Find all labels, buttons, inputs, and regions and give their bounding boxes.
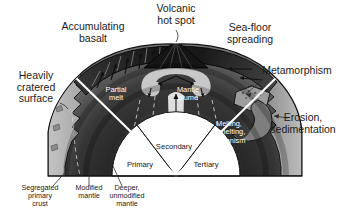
label-melting-remelting-volcanism: Melting,remelting,volcanism xyxy=(213,119,246,145)
label-secondary: Secondary xyxy=(156,142,193,151)
label-sea-floor-spreading: Sea-floorspreading xyxy=(227,21,273,45)
label-volcanic-hot-spot: Volcanichot spot xyxy=(156,2,195,26)
planet-body-group xyxy=(40,28,312,180)
label-line: cratered xyxy=(17,81,56,93)
label-line: Tertiary xyxy=(194,160,219,169)
label-line: Erosion, xyxy=(284,111,323,123)
label-line: surface xyxy=(19,92,54,104)
label-line: mantle xyxy=(78,191,100,200)
label-primary: Primary xyxy=(127,160,153,169)
label-tertiary: Tertiary xyxy=(194,160,219,169)
label-line: plume xyxy=(178,93,198,102)
label-modified-mantle: Modifiedmantle xyxy=(75,183,102,200)
label-deeper-unmodified-mantle: Deeper,unmodifiedmantle xyxy=(109,183,144,208)
label-line: basalt xyxy=(79,32,107,44)
label-line: Primary xyxy=(127,160,153,169)
label-line: Accumulating xyxy=(61,20,124,32)
label-line: Metamorphism xyxy=(262,64,332,76)
diagram-canvas: Volcanichot spotAccumulatingbasaltSea-fl… xyxy=(0,0,350,221)
label-line: Sea-floor xyxy=(229,21,272,33)
label-line: mantle xyxy=(116,199,138,208)
eruption-plume-wisp xyxy=(175,28,177,40)
label-line: hot spot xyxy=(157,14,194,26)
planetary-evolution-diagram: Volcanichot spotAccumulatingbasaltSea-fl… xyxy=(0,0,350,221)
label-line: Heavily xyxy=(19,69,54,81)
label-line: melt xyxy=(109,93,123,102)
label-line: volcanism xyxy=(213,136,246,145)
leader-volcanic-hot-spot xyxy=(176,30,178,42)
label-segregated-primary-crust: Segregatedprimarycrust xyxy=(21,183,58,208)
label-line: Secondary xyxy=(156,142,193,151)
label-accumulating-basalt: Accumulatingbasalt xyxy=(61,20,124,44)
label-line: sedimentation xyxy=(270,123,336,135)
label-heavily-cratered-surface: Heavilycrateredsurface xyxy=(17,69,56,104)
label-line: spreading xyxy=(227,33,273,45)
label-line: Volcanic xyxy=(156,2,195,14)
label-line: crust xyxy=(32,199,48,208)
label-metamorphism: Metamorphism xyxy=(262,64,332,76)
label-mantle-plume: Mantleplume xyxy=(177,85,199,102)
